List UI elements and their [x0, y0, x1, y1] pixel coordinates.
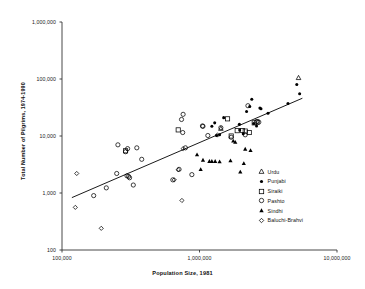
- marker-open-circle: [135, 146, 139, 150]
- legend-label: Baluchi-Brahvi: [268, 217, 304, 223]
- marker-open-circle: [104, 186, 108, 190]
- marker-filled-circle: [238, 123, 241, 126]
- marker-open-circle: [179, 117, 183, 121]
- legend-label: Sindhi: [268, 208, 283, 214]
- marker-filled-circle: [295, 83, 298, 86]
- marker-open-triangle: [259, 169, 264, 173]
- y-axis-tick-label: 1,000,000: [0, 19, 56, 25]
- marker-open-circle: [140, 157, 144, 161]
- x-axis-tick-label: 10,000,000: [307, 255, 365, 261]
- legend-label: Pashto: [268, 198, 285, 204]
- marker-open-circle: [92, 194, 96, 198]
- marker-open-square: [225, 117, 229, 121]
- series-siraiki: [123, 117, 259, 153]
- series-sindhi: [195, 139, 253, 174]
- marker-filled-circle: [260, 180, 263, 183]
- legend-marker-open-triangle-icon: [258, 168, 265, 175]
- y-axis-tick-label: 10,000: [0, 133, 56, 139]
- legend-marker-filled-circle-icon: [258, 178, 265, 185]
- series-baluchi-brahvi: [73, 133, 219, 230]
- legend-marker-open-circle-icon: [258, 197, 265, 204]
- scatter-chart: Total Number of Pilgrims, 1974-1990 Popu…: [0, 0, 365, 289]
- marker-open-circle: [229, 135, 233, 139]
- legend-label: Siraiki: [268, 188, 283, 194]
- legend-item-punjabi[interactable]: Punjabi: [258, 178, 303, 186]
- legend-item-baluchi-brahvi[interactable]: Baluchi-Brahvi: [258, 216, 303, 224]
- marker-filled-triangle: [242, 161, 246, 165]
- marker-open-circle: [206, 133, 210, 137]
- series-punjabi: [210, 83, 301, 137]
- marker-filled-triangle: [195, 152, 199, 156]
- legend-item-sindhi[interactable]: Sindhi: [258, 207, 303, 215]
- marker-open-circle: [181, 130, 185, 134]
- marker-open-diamond: [259, 218, 263, 222]
- marker-filled-circle: [259, 107, 262, 110]
- marker-open-circle: [131, 183, 135, 187]
- legend-marker-open-diamond-icon: [258, 217, 265, 224]
- marker-open-circle: [190, 173, 194, 177]
- marker-filled-circle: [222, 116, 225, 119]
- marker-open-square: [176, 128, 180, 132]
- y-axis-tick-label: 1,000: [0, 190, 56, 196]
- legend-label: Punjabi: [268, 178, 286, 184]
- y-axis-tick-label: 100: [0, 247, 56, 253]
- marker-open-circle: [259, 199, 263, 203]
- marker-filled-circle: [245, 110, 248, 113]
- marker-open-triangle: [296, 75, 301, 79]
- marker-open-circle: [115, 171, 119, 175]
- marker-filled-triangle: [199, 167, 203, 171]
- legend-marker-filled-triangle-icon: [258, 207, 265, 214]
- marker-open-diamond: [75, 171, 79, 175]
- marker-filled-triangle: [213, 159, 217, 163]
- marker-filled-triangle: [248, 148, 252, 152]
- marker-filled-circle: [267, 112, 270, 115]
- y-axis-title: Total Number of Pilgrims, 1974-1990: [20, 61, 26, 201]
- chart-legend: UrduPunjabiSiraikiPashtoSindhiBaluchi-Br…: [258, 168, 303, 224]
- legend-item-pashto[interactable]: Pashto: [258, 197, 303, 205]
- marker-open-diamond: [73, 205, 77, 209]
- marker-filled-circle: [286, 102, 289, 105]
- legend-item-urdu[interactable]: Urdu: [258, 168, 303, 176]
- legend-marker-open-square-icon: [258, 188, 265, 195]
- marker-filled-triangle: [228, 158, 232, 162]
- marker-filled-circle: [210, 125, 213, 128]
- marker-open-diamond: [99, 226, 103, 230]
- marker-filled-circle: [250, 98, 253, 101]
- marker-filled-circle: [298, 92, 301, 95]
- series-pashto: [92, 104, 261, 198]
- marker-filled-triangle: [217, 159, 221, 163]
- legend-item-siraiki[interactable]: Siraiki: [258, 187, 303, 195]
- marker-filled-triangle: [201, 158, 205, 162]
- marker-filled-triangle: [238, 170, 242, 174]
- x-axis-tick-label: 1,000,000: [170, 255, 230, 261]
- x-axis-title: Population Size, 1981: [0, 270, 365, 276]
- marker-open-square: [247, 130, 251, 134]
- marker-open-circle: [116, 143, 120, 147]
- marker-open-circle: [171, 178, 175, 182]
- marker-filled-triangle: [243, 147, 247, 151]
- legend-label: Urdu: [268, 169, 280, 175]
- marker-open-circle: [181, 112, 185, 116]
- marker-filled-triangle: [259, 208, 263, 212]
- marker-open-diamond: [180, 198, 184, 202]
- y-axis-tick-label: 100,000: [0, 76, 56, 82]
- plot-area: [0, 0, 365, 289]
- marker-open-square: [259, 189, 263, 193]
- x-axis-tick-label: 100,000: [32, 255, 92, 261]
- marker-filled-circle: [213, 121, 216, 124]
